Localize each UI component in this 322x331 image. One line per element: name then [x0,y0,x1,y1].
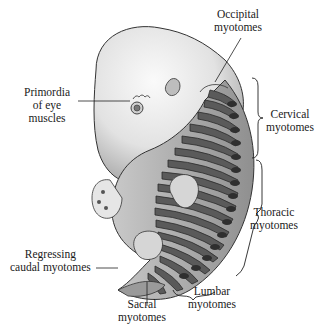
label-sacral-myotomes: Sacral myotomes [118,298,166,324]
label-regressing-caudal-myotomes: Regressing caudal myotomes [10,248,91,274]
lower-limb-bud [134,231,163,259]
label-lumbar-myotomes: Lumbar myotomes [188,285,236,311]
label-primordia-eye-muscles: Primordia of eye muscles [24,86,70,125]
label-occipital-myotomes: Occipital myotomes [214,8,262,34]
label-cervical-myotomes: Cervical myotomes [266,108,314,134]
embryo-myotome-diagram: Occipital myotomes Primordia of eye musc… [0,0,322,331]
embryo-illustration [0,0,322,331]
label-thoracic-myotomes: Thoracic myotomes [250,206,298,232]
